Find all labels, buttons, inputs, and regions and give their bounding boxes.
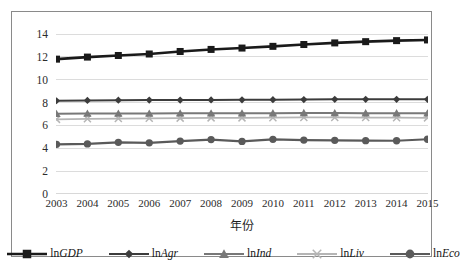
data-point-marker [177, 48, 184, 55]
data-point-marker [146, 51, 153, 58]
data-point-marker [331, 137, 338, 144]
data-point-marker [84, 140, 91, 147]
legend-key-lnAgr [109, 247, 149, 259]
legend-key-lnInd [204, 247, 244, 259]
series-lnGDP [56, 36, 428, 62]
data-point-marker [56, 141, 60, 148]
data-point-marker [424, 36, 428, 43]
legend-item-lnInd[interactable]: lnInd [204, 247, 271, 259]
legend-item-lnEco[interactable]: lnEco [390, 247, 460, 259]
legend-item-lnGDP[interactable]: lnGDP [7, 247, 83, 259]
data-point-marker [146, 139, 153, 146]
x-axis-tick-label: 2015 [408, 197, 448, 209]
y-axis-tick-label: 8 [12, 97, 48, 109]
legend-label-lnEco: lnEco [433, 247, 460, 259]
series-lnInd [56, 109, 428, 117]
chart-frame: 02468101214 2003200420052006200720082009… [11, 11, 432, 257]
legend-label-lnGDP: lnGDP [50, 247, 83, 259]
data-point-marker [269, 136, 276, 143]
data-point-marker [362, 38, 369, 45]
data-point-marker [300, 41, 307, 48]
data-point-marker [393, 96, 400, 103]
data-point-marker [300, 136, 307, 143]
legend-label-lnInd: lnInd [247, 247, 271, 259]
data-point-marker [239, 45, 246, 52]
legend-key-lnGDP [7, 247, 47, 259]
data-point-marker [300, 96, 307, 103]
data-point-marker [362, 137, 369, 144]
x-axis-title: 年份 [56, 216, 428, 233]
data-point-marker [406, 250, 415, 259]
data-point-marker [177, 137, 184, 144]
data-point-marker [393, 37, 400, 44]
legend-key-lnLiv [297, 247, 337, 259]
data-point-marker [238, 138, 245, 145]
y-axis-tick-label: 2 [12, 165, 48, 177]
series-lnAgr [56, 96, 428, 105]
series-lnEco [56, 136, 428, 148]
data-point-marker [208, 46, 215, 53]
data-point-marker [56, 56, 60, 63]
data-point-marker [269, 43, 276, 50]
data-point-marker [331, 39, 338, 46]
y-axis-tick-label: 10 [12, 74, 48, 86]
y-axis-tick-label: 4 [12, 142, 48, 154]
chart-legend: lnGDPlnAgrlnIndlnLivlnEco [23, 243, 444, 263]
y-axis-tick-label: 14 [12, 28, 48, 40]
data-point-marker [207, 136, 214, 143]
data-point-marker [331, 96, 338, 103]
x-axis-tick-labels: 2003200420052006200720082009201020112012… [56, 197, 428, 213]
data-point-marker [56, 97, 60, 104]
data-point-marker [84, 54, 91, 61]
data-point-marker [124, 250, 133, 259]
y-axis-tick-label: 12 [12, 51, 48, 63]
data-point-marker [424, 136, 428, 143]
data-point-marker [23, 250, 32, 259]
data-point-marker [115, 52, 122, 59]
data-point-marker [393, 137, 400, 144]
legend-item-lnAgr[interactable]: lnAgr [109, 247, 178, 259]
data-point-marker [424, 96, 428, 103]
data-point-marker [362, 96, 369, 103]
y-axis-tick-label: 6 [12, 119, 48, 131]
legend-key-lnEco [390, 247, 430, 259]
data-point-marker [115, 139, 122, 146]
legend-label-lnAgr: lnAgr [152, 247, 178, 259]
legend-label-lnLiv: lnLiv [340, 247, 364, 259]
plot-area [56, 34, 428, 194]
y-axis-tick-labels: 02468101214 [12, 34, 52, 194]
chart-svg [56, 34, 428, 194]
legend-item-lnLiv[interactable]: lnLiv [297, 247, 364, 259]
figure-caption [0, 262, 446, 273]
